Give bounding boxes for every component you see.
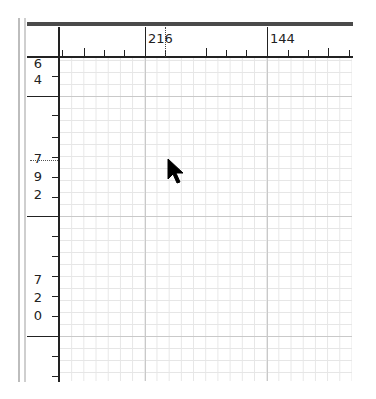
ruler-minor-tick — [52, 276, 58, 277]
drawing-canvas-grid[interactable] — [60, 58, 352, 381]
window-border-left-inner — [24, 18, 26, 382]
grid-major-line-vertical — [267, 58, 268, 381]
ruler-minor-tick — [52, 76, 58, 77]
ruler-minor-tick — [52, 236, 58, 237]
horizontal-guide-marker — [165, 27, 166, 57]
ruler-major-tick — [27, 336, 59, 337]
vertical-guide-marker — [30, 160, 58, 161]
grid-major-line-horizontal — [60, 96, 352, 97]
ruler-label-144: 144 — [270, 32, 295, 45]
horizontal-ruler-baseline — [27, 56, 353, 58]
ruler-minor-tick — [226, 50, 227, 56]
ruler-minor-tick — [328, 48, 329, 56]
grid-major-line-horizontal — [60, 216, 352, 217]
ruler-minor-tick — [52, 177, 58, 178]
ruler-minor-tick — [349, 50, 350, 56]
ruler-minor-tick — [84, 48, 85, 56]
ruler-minor-tick — [52, 356, 58, 357]
arrow-pointer-icon — [166, 157, 188, 187]
ruler-major-tick — [145, 27, 146, 57]
ruler-minor-tick — [62, 50, 63, 56]
ruler-label-216: 216 — [148, 32, 173, 45]
ruler-minor-tick — [124, 50, 125, 56]
ruler-major-tick — [27, 96, 59, 97]
ruler-minor-tick — [246, 50, 247, 56]
ruler-major-tick — [27, 216, 59, 217]
grid-major-line-horizontal — [60, 336, 352, 337]
ruler-minor-tick — [288, 50, 289, 56]
ruler-major-tick — [267, 27, 268, 57]
ruler-minor-tick — [52, 256, 58, 257]
ruler-minor-tick — [104, 50, 105, 56]
ruler-minor-tick — [206, 48, 207, 56]
ruler-label-720: 7 2 0 — [31, 274, 45, 322]
grid-major-line-vertical — [145, 58, 146, 381]
horizontal-ruler[interactable] — [27, 26, 353, 57]
ruler-minor-tick — [52, 316, 58, 317]
ruler-minor-tick — [308, 50, 309, 56]
ruler-minor-tick — [52, 157, 58, 158]
ruler-label-64: 6 4 — [31, 58, 45, 86]
ruler-minor-tick — [52, 197, 58, 198]
window-border-left — [18, 18, 20, 382]
ruler-minor-tick — [52, 115, 58, 116]
ruler-minor-tick — [52, 137, 58, 138]
ruler-minor-tick — [52, 296, 58, 297]
vertical-ruler[interactable] — [58, 27, 60, 382]
ruler-minor-tick — [52, 376, 58, 377]
